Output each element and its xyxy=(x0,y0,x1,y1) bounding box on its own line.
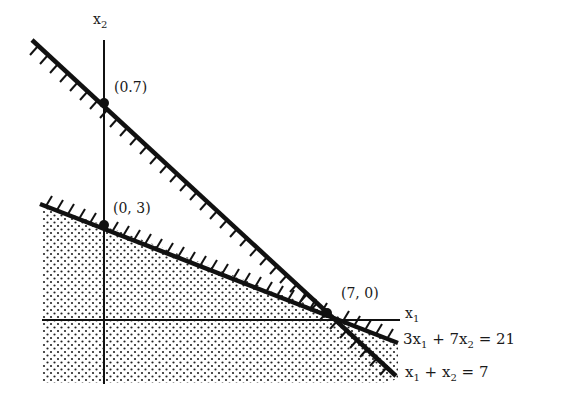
c2-part-b: + x xyxy=(420,363,451,381)
x1-axis-label-sub: 1 xyxy=(413,313,419,324)
c1-part-b: + 7x xyxy=(427,330,467,348)
c1-part-a: 3x xyxy=(403,330,421,348)
x1-axis-label: x1 xyxy=(405,306,419,324)
constraint-label-x1-x2-7: x1 + x2 = 7 xyxy=(405,365,488,383)
point-7-0 xyxy=(322,308,332,318)
point-label-0-7: (0.7) xyxy=(114,80,147,94)
x2-axis-label-base: x xyxy=(93,11,101,27)
c1-part-c: = 21 xyxy=(474,330,515,348)
point-label-7-0: (7, 0) xyxy=(341,286,379,300)
point-label-0-3: (0, 3) xyxy=(113,201,151,215)
x2-axis-label-sub: 2 xyxy=(101,19,107,30)
point-0-3 xyxy=(99,220,109,230)
c2-part-c: = 7 xyxy=(457,363,489,381)
constraint-label-3x1-7x2-21: 3x1 + 7x2 = 21 xyxy=(403,332,515,350)
point-0-7 xyxy=(99,98,109,108)
x1-axis-label-base: x xyxy=(405,305,413,321)
x2-axis-label: x2 xyxy=(93,12,107,30)
